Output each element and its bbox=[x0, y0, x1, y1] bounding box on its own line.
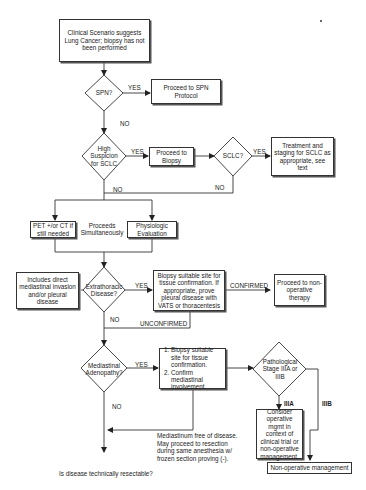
mediastinal-step-1: Biopsy suitable site for tissue confirma… bbox=[171, 346, 223, 368]
suspicion-no-label: NO bbox=[113, 186, 122, 193]
high-suspicion-label: High Suspicion for SCLC bbox=[88, 140, 120, 172]
flowchart-connectors bbox=[0, 0, 366, 490]
non-operative-management-node: Non-operative management bbox=[267, 462, 352, 474]
spn-protocol-node: Proceed to SPN Protocol bbox=[151, 79, 221, 104]
mediastinal-step-2: Confirm mediastinal involvement. bbox=[171, 369, 223, 391]
extrathoracic-yes-label: YES bbox=[135, 282, 148, 289]
stage-iiia-label: IIIA bbox=[284, 400, 294, 407]
sclc-decision-label: SCLC? bbox=[216, 150, 250, 162]
spn-yes-label: YES bbox=[128, 84, 141, 91]
proceed-biopsy-node: Proceed to Biopsy bbox=[149, 147, 194, 166]
mediastinal-steps-node: Biopsy suitable site for tissue confirma… bbox=[159, 348, 226, 389]
confirmed-label: CONFIRMED bbox=[230, 282, 268, 289]
mediastinal-yes-label: YES bbox=[135, 361, 148, 368]
sclc-treatment-node: Treatment and staging for SCLC as approp… bbox=[271, 137, 334, 176]
physiologic-evaluation-node: Physiologic Evaluation bbox=[127, 221, 177, 238]
extrathoracic-decision-label: Extrathoracic Disease? bbox=[86, 281, 122, 299]
non-operative-therapy-node: Proceed to non-operative therapy bbox=[274, 274, 325, 306]
mediastinal-no-label: NO bbox=[112, 403, 121, 410]
decorative-dot bbox=[320, 20, 322, 22]
start-node: Clinical Scenario suggests Lung Cancer; … bbox=[59, 19, 150, 62]
mediastinum-free-note: Mediastinum free of disease. May proceed… bbox=[157, 432, 241, 462]
pet-ct-node: PET +/or CT if still needed bbox=[30, 221, 76, 238]
resectable-question: Is disease technically resectable? bbox=[59, 470, 153, 477]
proceeds-simultaneously-label: Proceeds Simultaneously bbox=[78, 220, 126, 238]
sclc-yes-label: YES bbox=[253, 148, 266, 155]
pathological-stage-label: Pathological Stage IIIA or IIIB bbox=[262, 356, 298, 382]
extrathoracic-no-label: NO bbox=[110, 316, 119, 323]
suspicion-yes-label: YES bbox=[131, 148, 144, 155]
stage-iiib-label: IIIB bbox=[322, 400, 332, 407]
biopsy-site-node: Biopsy suitable site for tissue confirma… bbox=[153, 270, 225, 311]
mediastinal-decision-label: Mediastinal Adenopathy? bbox=[83, 360, 125, 378]
unconfirmed-label: UNCONFIRMED bbox=[140, 320, 187, 327]
sclc-no-label: NO bbox=[215, 184, 224, 191]
spn-no-label: NO bbox=[120, 120, 129, 127]
includes-direct-node: Includes direct mediastinal invasion and… bbox=[16, 272, 79, 309]
spn-decision-label: SPN? bbox=[86, 86, 122, 100]
consider-operative-node: Consider operative mgmt in context of cl… bbox=[256, 409, 303, 459]
